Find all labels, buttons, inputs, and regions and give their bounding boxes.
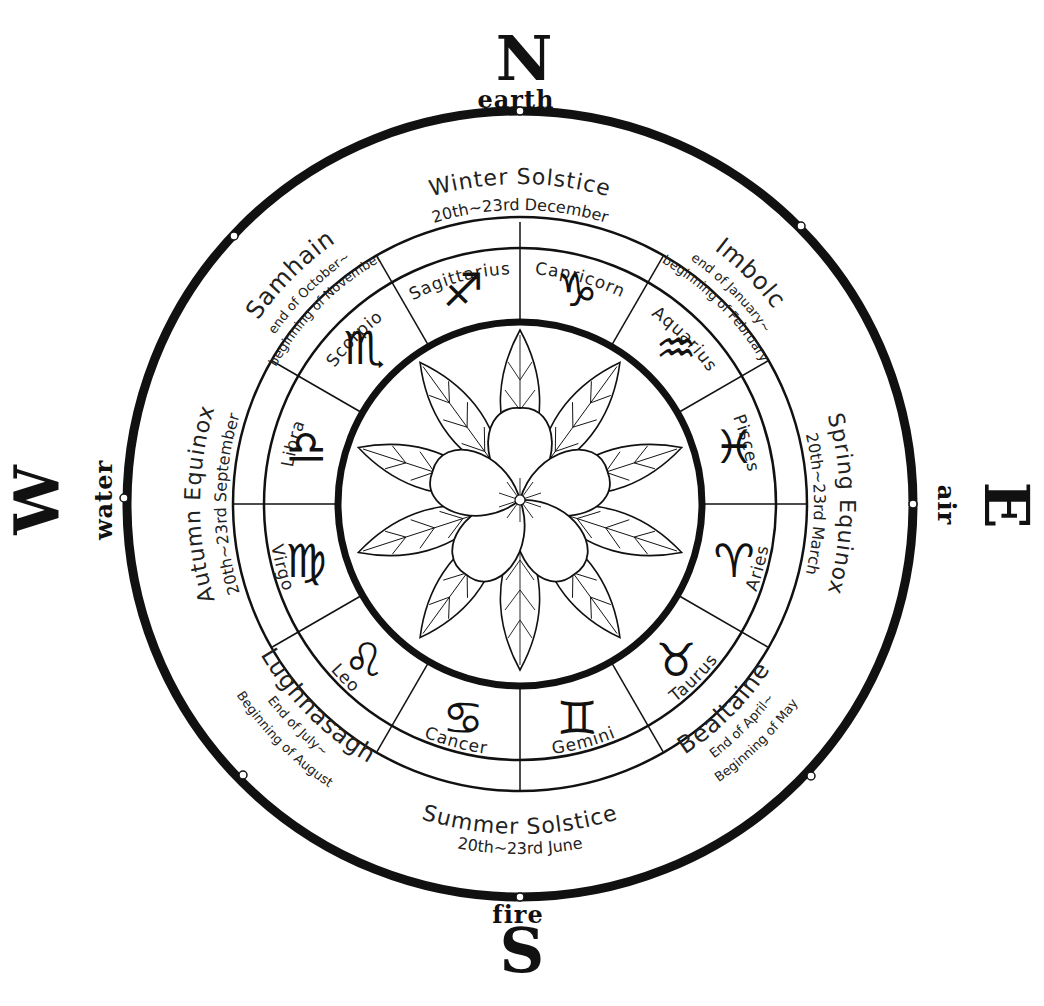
pisces-icon: ♓: [713, 420, 754, 474]
leo-icon: ♌: [343, 633, 384, 687]
gemini-icon: ♊: [556, 691, 597, 745]
spring-equinox-label: Spring Equinox: [823, 410, 860, 598]
compass-west: W: [0, 464, 73, 536]
wheel-of-the-year-diagram: N earth S fire E air W water Winter Sols…: [0, 0, 1044, 1006]
libra-icon: ♎: [285, 420, 326, 474]
element-earth: earth: [478, 85, 555, 114]
compass-east: E: [970, 481, 1043, 528]
taurus-icon: ♉: [655, 633, 696, 687]
scorpio-icon: ♏: [343, 321, 384, 375]
element-fire: fire: [492, 900, 543, 929]
aries-icon: ♈: [713, 534, 754, 588]
cancer-icon: ♋: [442, 691, 483, 745]
summer-solstice-label: Summer Solstice: [420, 800, 621, 839]
sagittarius-icon: ♐: [442, 263, 483, 317]
element-water: water: [89, 460, 118, 541]
aquarius-icon: ♒: [655, 321, 696, 375]
capricorn-icon: ♑: [556, 263, 597, 317]
flower-with-leaves-icon: [352, 330, 687, 670]
element-air: air: [932, 485, 961, 525]
virgo-icon: ♍: [285, 534, 326, 588]
